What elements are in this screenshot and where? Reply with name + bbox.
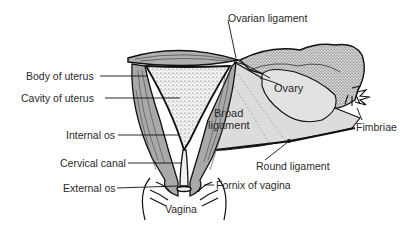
- label-external-os: External os: [63, 182, 116, 194]
- label-ovarian-ligament: Ovarian ligament: [228, 12, 307, 24]
- label-cavity-of-uterus: Cavity of uterus: [21, 92, 94, 104]
- label-cervical-canal: Cervical canal: [60, 157, 126, 169]
- label-round-ligament: Round ligament: [256, 160, 330, 172]
- label-fimbriae: Fimbriae: [356, 121, 397, 133]
- label-ovary: Ovary: [274, 82, 303, 94]
- label-fornix-of-vagina: Fornix of vagina: [216, 179, 291, 191]
- external-os-shape: [177, 187, 191, 192]
- label-body-of-uterus: Body of uterus: [26, 70, 94, 82]
- label-broad-ligament-2: ligament: [208, 119, 250, 131]
- cervical-canal-shape: [180, 150, 188, 186]
- label-broad-ligament-1: Broad: [214, 107, 243, 119]
- uterus-fundus-shape: [128, 50, 238, 65]
- label-internal-os: Internal os: [66, 129, 115, 141]
- uterus-anatomy-illustration: [0, 0, 420, 230]
- label-vagina: Vagina: [165, 203, 197, 215]
